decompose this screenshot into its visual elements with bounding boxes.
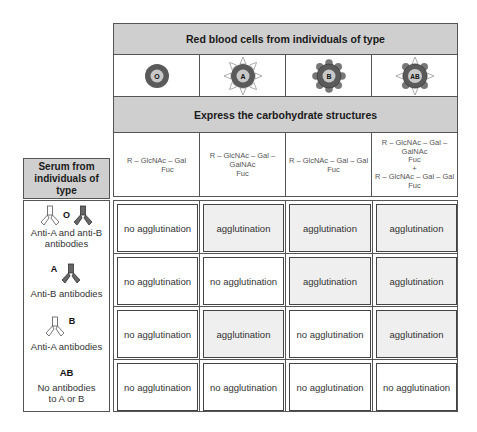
serum-description: No antibodies to A or B <box>23 382 110 404</box>
grid-divider <box>113 359 458 360</box>
result-cell: agglutination <box>289 257 371 305</box>
carb-chain: R – GlcNAc – Gal – Gal <box>289 156 368 165</box>
result-text: agglutination <box>303 276 357 287</box>
result-text: no agglutination <box>296 382 363 393</box>
result-text: agglutination <box>390 223 444 234</box>
serum-type-label: AB <box>60 367 74 378</box>
serum-description: Anti-A and anti-B antibodies <box>23 227 110 249</box>
serum-row-a: A Anti-B antibodies <box>23 253 110 306</box>
serum-description: Anti-A antibodies <box>31 341 102 352</box>
serum-type-label: O <box>63 210 70 221</box>
rbc-header: Red blood cells from individuals of type <box>113 23 458 55</box>
serum-row-ab: AB No antibodies to A or B <box>23 359 110 412</box>
result-text: no agglutination <box>124 382 191 393</box>
carbohydrate-row: R – GlcNAc – Gal Fuc R – GlcNAc – Gal – … <box>113 133 458 197</box>
carbohydrate-a: R – GlcNAc – Gal – GalNAc Fuc <box>200 133 286 196</box>
result-text: no agglutination <box>124 223 191 234</box>
result-cell: agglutination <box>289 204 371 252</box>
result-text: agglutination <box>390 329 444 340</box>
result-cell: no agglutination <box>203 257 284 305</box>
fucose-label: Fuc <box>127 165 186 174</box>
result-cell: no agglutination <box>289 310 371 358</box>
carbohydrate-o: R – GlcNAc – Gal Fuc <box>114 133 200 196</box>
result-cell: no agglutination <box>203 363 284 411</box>
svg-text:AB: AB <box>410 72 420 79</box>
result-text: agglutination <box>217 329 271 340</box>
result-text: no agglutination <box>124 329 191 340</box>
carb-chain: R – GlcNAc – Gal – GalNAc <box>372 139 457 156</box>
anti-b-antibody-icon <box>72 205 94 227</box>
svg-text:B: B <box>326 73 331 80</box>
red-blood-cell-o-icon: O <box>137 56 177 96</box>
cell-type-ab: AB <box>372 55 457 96</box>
serum-type-label: B <box>69 316 76 327</box>
fucose-label: Fuc <box>372 182 457 191</box>
result-cell: no agglutination <box>376 363 457 411</box>
red-blood-cell-a-icon: A <box>221 54 265 98</box>
result-cell: no agglutination <box>117 204 198 252</box>
result-cell: agglutination <box>376 257 457 305</box>
grid-divider <box>113 253 458 254</box>
svg-text:A: A <box>240 73 245 80</box>
cell-type-o: O <box>114 55 200 96</box>
fucose-label: Fuc <box>200 169 285 178</box>
serum-header: Serum from individuals of type <box>23 158 110 199</box>
red-blood-cell-ab-icon: AB <box>393 54 437 98</box>
result-text: agglutination <box>390 276 444 287</box>
grid-divider <box>113 306 458 307</box>
red-blood-cell-b-icon: B <box>307 54 351 98</box>
serum-row-o: O Anti-A and anti-B antibodies <box>23 200 110 253</box>
carb-chain: R – GlcNAc – Gal – GalNAc <box>210 151 275 169</box>
carbohydrate-b: R – GlcNAc – Gal – Gal Fuc <box>286 133 372 196</box>
result-cell: no agglutination <box>117 257 198 305</box>
result-text: no agglutination <box>124 276 191 287</box>
anti-a-antibody-icon <box>39 205 61 227</box>
result-text: no agglutination <box>296 329 363 340</box>
rbc-header-title: Red blood cells from individuals of type <box>186 33 385 45</box>
result-cell: agglutination <box>376 204 457 252</box>
carbohydrate-ab: R – GlcNAc – Gal – GalNAc Fuc + R – GlcN… <box>372 133 457 196</box>
anti-b-antibody-icon <box>60 263 82 285</box>
carbohydrate-header: Express the carbohydrate structures <box>113 97 458 133</box>
result-text: agglutination <box>217 223 271 234</box>
serum-description: Anti-B antibodies <box>31 288 103 299</box>
result-cell: agglutination <box>203 310 284 358</box>
result-cell: agglutination <box>203 204 284 252</box>
blood-cell-row: O A <box>113 55 458 97</box>
anti-a-antibody-icon <box>44 316 66 338</box>
result-cell: no agglutination <box>289 363 371 411</box>
result-cell: agglutination <box>376 310 457 358</box>
result-cell: no agglutination <box>117 310 198 358</box>
cell-type-a: A <box>200 55 286 96</box>
serum-type-label: A <box>51 264 58 275</box>
result-text: no agglutination <box>383 382 450 393</box>
svg-text:O: O <box>154 73 160 80</box>
serum-header-title: Serum from individuals of type <box>27 161 106 197</box>
serum-row-b: B Anti-A antibodies <box>23 306 110 359</box>
result-cell: no agglutination <box>117 363 198 411</box>
carbohydrate-header-title: Express the carbohydrate structures <box>194 109 377 121</box>
result-text: agglutination <box>303 223 357 234</box>
cell-type-b: B <box>286 55 372 96</box>
fucose-label: Fuc <box>289 165 368 174</box>
carb-chain: R – GlcNAc – Gal <box>127 156 186 165</box>
result-text: no agglutination <box>210 276 277 287</box>
result-text: no agglutination <box>210 382 277 393</box>
